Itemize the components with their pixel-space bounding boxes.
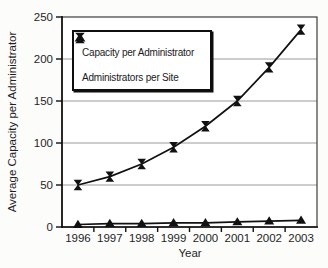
x-tick-label-2003: 2003: [288, 232, 314, 244]
x-tick-label-2001: 2001: [225, 232, 251, 244]
y-tick-label-150: 150: [34, 95, 53, 107]
y-tick-label-200: 200: [34, 53, 53, 65]
y-tick-label-0: 0: [47, 221, 53, 233]
x-tick-label-1999: 1999: [161, 232, 187, 244]
legend: Capacity per Administrator Administrator…: [72, 30, 212, 91]
legend-label-admins: Administrators per Site: [82, 71, 202, 84]
chart-figure: 0501001502002501996199719981999200020012…: [0, 0, 328, 268]
x-tick-label-2000: 2000: [193, 232, 219, 244]
y-tick-label-50: 50: [40, 179, 53, 191]
hourglass-marker-icon: [82, 34, 202, 46]
y-tick-label-250: 250: [34, 11, 53, 23]
x-axis-title: Year: [150, 247, 230, 259]
legend-item-admins: Administrators per Site: [82, 59, 202, 84]
x-tick-label-1997: 1997: [97, 232, 123, 244]
triangle-marker-icon: [82, 59, 202, 71]
legend-label-capacity: Capacity per Administrator: [82, 46, 202, 59]
x-tick-label-2002: 2002: [256, 232, 282, 244]
y-tick-label-100: 100: [34, 137, 53, 149]
x-tick-label-1996: 1996: [65, 232, 91, 244]
y-axis-title: Average Capacity per Administrator: [6, 16, 22, 228]
x-tick-label-1998: 1998: [129, 232, 155, 244]
legend-item-capacity: Capacity per Administrator: [82, 34, 202, 59]
